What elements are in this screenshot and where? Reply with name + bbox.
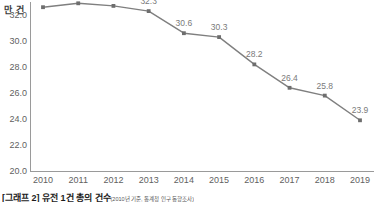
- data-point-label: 32.6: [35, 0, 52, 2]
- series-marker: [76, 1, 80, 5]
- data-point-label: 25.8: [316, 81, 333, 91]
- data-point-label: 30.6: [176, 18, 193, 28]
- series-marker: [288, 86, 292, 90]
- data-point-label: 32.7: [105, 0, 122, 1]
- data-point-label: 28.2: [246, 49, 263, 59]
- figure-caption-text: [그래프 2] 유전 1건 총의 건수: [2, 193, 111, 202]
- series-marker: [112, 4, 116, 8]
- series-plot-area: [0, 0, 376, 202]
- data-point-label: 23.9: [352, 105, 369, 115]
- series-marker: [147, 9, 151, 13]
- series-marker: [358, 118, 362, 122]
- data-point-label: 26.4: [281, 73, 298, 83]
- series-marker: [323, 94, 327, 98]
- data-point-label: 32.3: [140, 0, 157, 6]
- data-point-label: 30.3: [211, 22, 228, 32]
- series-marker: [182, 31, 186, 35]
- series-marker: [217, 35, 221, 39]
- series-marker: [41, 5, 45, 9]
- figure-caption: [그래프 2] 유전 1건 총의 건수(2010년 기준, 통계청 인구 동향조…: [2, 191, 194, 202]
- series-line: [43, 3, 360, 120]
- series-markers: [41, 1, 362, 122]
- figure-caption-source: (2010년 기준, 통계청 인구 동향조사): [111, 196, 195, 202]
- series-marker: [252, 63, 256, 67]
- figure-line-chart: 만 건 20.022.024.026.028.030.032.0 2010201…: [0, 0, 376, 202]
